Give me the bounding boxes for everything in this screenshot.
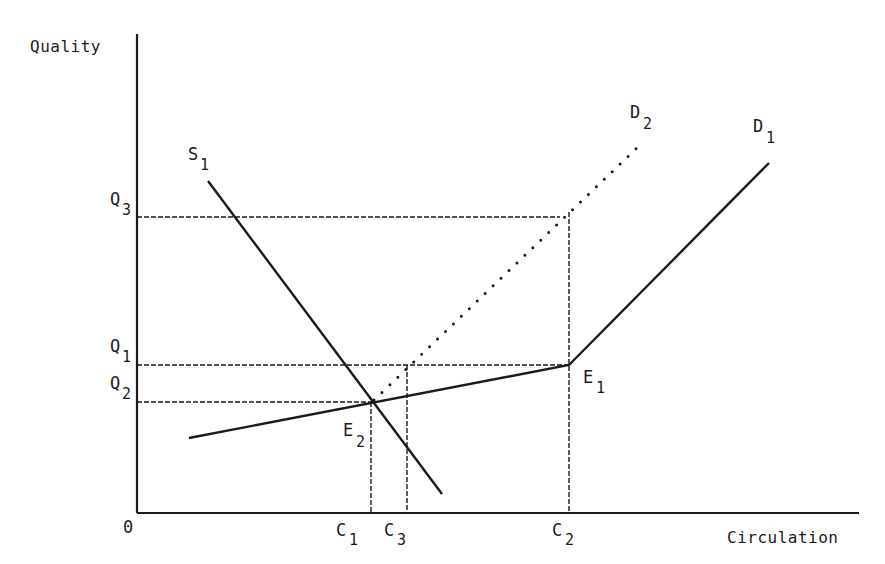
svg-text:C: C xyxy=(336,520,346,540)
svg-text:D: D xyxy=(753,116,763,136)
axes xyxy=(137,34,859,513)
svg-text:1: 1 xyxy=(596,379,605,397)
label-e2: E 2 xyxy=(343,420,365,451)
tick-q2: Q 2 xyxy=(110,373,131,403)
svg-text:2: 2 xyxy=(356,433,365,451)
svg-text:S: S xyxy=(188,144,198,164)
supply-curve-s1 xyxy=(208,181,442,494)
label-e1: E 1 xyxy=(583,367,605,397)
svg-text:3: 3 xyxy=(397,531,406,549)
tick-c2: C 2 xyxy=(552,520,574,549)
label-d2: D 2 xyxy=(630,102,652,133)
svg-text:D: D xyxy=(630,102,640,122)
svg-text:2: 2 xyxy=(643,115,652,133)
svg-text:3: 3 xyxy=(122,201,131,219)
x-axis-label: Circulation xyxy=(727,528,838,547)
svg-text:Q: Q xyxy=(110,189,120,209)
svg-text:2: 2 xyxy=(122,385,131,403)
svg-text:C: C xyxy=(384,520,394,540)
tick-c1: C 1 xyxy=(336,520,358,549)
supply-demand-diagram: Quality Circulation 0 S 1 D 2 D 1 E 1 E … xyxy=(0,0,885,564)
svg-text:2: 2 xyxy=(565,531,574,549)
origin-label: 0 xyxy=(123,517,133,537)
svg-text:1: 1 xyxy=(766,129,775,147)
tick-q1: Q 1 xyxy=(110,336,131,366)
demand-curve-d2 xyxy=(374,145,640,400)
demand-curve-d1 xyxy=(189,163,769,438)
svg-text:E: E xyxy=(583,367,593,387)
svg-text:E: E xyxy=(343,420,353,440)
label-s1: S 1 xyxy=(188,144,209,174)
tick-q3: Q 3 xyxy=(110,189,131,219)
label-d1: D 1 xyxy=(753,116,775,147)
y-axis-label: Quality xyxy=(30,37,101,56)
svg-text:Q: Q xyxy=(110,336,120,356)
svg-text:1: 1 xyxy=(122,348,131,366)
svg-text:1: 1 xyxy=(200,156,209,174)
svg-text:C: C xyxy=(552,520,562,540)
reference-lines xyxy=(137,212,569,513)
tick-c3: C 3 xyxy=(384,520,406,549)
svg-text:1: 1 xyxy=(349,531,358,549)
svg-text:Q: Q xyxy=(110,373,120,393)
